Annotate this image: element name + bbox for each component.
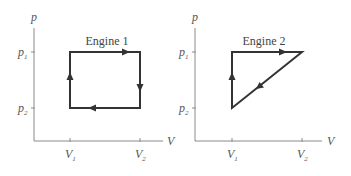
engine-1-diagram: p V p1 p2 V1 V2 Engine 1 (17, 10, 176, 163)
engine-2-p-axis-label: p (191, 10, 198, 24)
arrow-left-icon (88, 105, 96, 112)
engine-1-p1-label: p1 (17, 45, 28, 61)
engine-1-cycle (70, 52, 140, 108)
engine-2-cycle (232, 52, 302, 108)
arrow-right-icon (122, 49, 130, 56)
engine-1-v2-label: V2 (135, 147, 146, 163)
engine-2-v1-label: V1 (227, 147, 238, 163)
engine-2-p2-label: p2 (178, 101, 189, 117)
engine-2-diagram: p V p1 p2 V1 V2 Engine 2 (178, 10, 336, 163)
engine-1-p2-label: p2 (17, 101, 28, 117)
engine-2-title: Engine 2 (243, 34, 286, 48)
engine-2-v-axis-label: V (327, 134, 336, 148)
engine-1-title: Engine 1 (86, 34, 129, 48)
arrow-down-icon (137, 84, 144, 92)
engine-1-v-axis-label: V (167, 134, 176, 148)
arrow-up-icon (229, 72, 236, 80)
arrow-right-icon (279, 49, 287, 56)
pv-diagrams: p V p1 p2 V1 V2 Engine 1 p V p1 p2 V1 V2… (0, 0, 351, 176)
engine-1-p-axis-label: p (30, 10, 37, 24)
arrow-up-icon (67, 72, 74, 80)
engine-1-v1-label: V1 (65, 147, 76, 163)
engine-2-p1-label: p1 (178, 45, 189, 61)
engine-2-v2-label: V2 (297, 147, 308, 163)
